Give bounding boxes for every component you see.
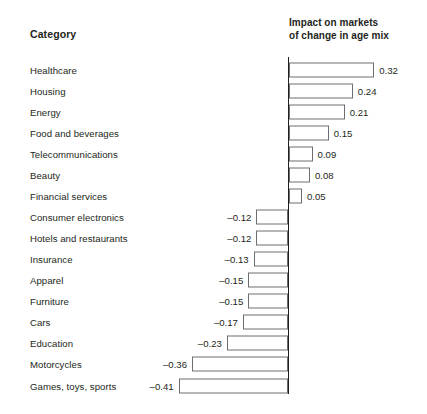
category-label: Cars: [30, 317, 50, 328]
chart-row: Housing0.24: [0, 80, 427, 101]
chart-row: Insurance–0.13: [0, 249, 427, 270]
value-label: –0.15: [219, 275, 243, 286]
value-label: 0.24: [358, 85, 377, 96]
value-label: –0.23: [198, 338, 222, 349]
impact-header-line-1: Impact on markets: [289, 17, 378, 28]
chart-row: Beauty0.08: [0, 164, 427, 185]
value-label: 0.09: [318, 148, 337, 159]
chart-row: Telecommunications0.09: [0, 143, 427, 164]
bar: [256, 209, 288, 224]
value-label: –0.41: [150, 380, 174, 391]
category-label: Housing: [30, 85, 66, 96]
category-label: Games, toys, sports: [30, 380, 116, 391]
bar: [256, 231, 288, 246]
value-label: –0.15: [219, 296, 243, 307]
column-header-category: Category: [30, 28, 76, 40]
impact-header-line-2: of change in age mix: [289, 30, 389, 43]
chart-row: Energy0.21: [0, 101, 427, 122]
bar: [179, 378, 289, 393]
bar: [192, 357, 288, 372]
chart-row: Hotels and restaurants–0.12: [0, 228, 427, 249]
bar: [227, 336, 289, 351]
value-label: –0.13: [225, 254, 249, 265]
chart-row: Education–0.23: [0, 333, 427, 354]
bar: [243, 315, 289, 330]
bar: [289, 62, 375, 77]
value-label: –0.12: [227, 233, 251, 244]
chart-row: Financial services0.05: [0, 185, 427, 206]
chart-row: Consumer electronics–0.12: [0, 206, 427, 227]
bar: [289, 146, 313, 161]
category-label: Energy: [30, 106, 61, 117]
value-label: 0.21: [350, 106, 369, 117]
chart-row: Furniture–0.15: [0, 291, 427, 312]
value-label: 0.08: [315, 169, 334, 180]
category-label: Motorcycles: [30, 359, 82, 370]
category-label: Consumer electronics: [30, 211, 124, 222]
bar: [289, 188, 302, 203]
category-label: Beauty: [30, 169, 60, 180]
category-label: Food and beverages: [30, 127, 119, 138]
chart-row: Cars–0.17: [0, 312, 427, 333]
bar: [289, 125, 329, 140]
bar: [289, 83, 353, 98]
value-label: 0.15: [334, 127, 353, 138]
chart-row: Food and beverages0.15: [0, 122, 427, 143]
chart-row: Games, toys, sports–0.41: [0, 375, 427, 396]
category-label: Financial services: [30, 190, 107, 201]
category-label: Insurance: [30, 254, 73, 265]
bar: [289, 104, 345, 119]
value-label: 0.05: [307, 190, 326, 201]
category-label: Healthcare: [30, 64, 77, 75]
category-label: Furniture: [30, 296, 69, 307]
category-label: Apparel: [30, 275, 63, 286]
category-label: Education: [30, 338, 73, 349]
chart-row: Healthcare0.32: [0, 59, 427, 80]
bar: [254, 252, 289, 267]
chart-row: Apparel–0.15: [0, 270, 427, 291]
bar: [289, 167, 310, 182]
bar: [248, 294, 288, 309]
bar: [248, 273, 288, 288]
value-label: –0.17: [214, 317, 238, 328]
value-label: –0.12: [227, 211, 251, 222]
age-mix-impact-bar-chart: Category Impact on markets of change in …: [0, 0, 427, 414]
value-label: –0.36: [163, 359, 187, 370]
value-label: 0.32: [379, 64, 398, 75]
column-header-impact: Impact on markets of change in age mix: [289, 17, 389, 42]
chart-row: Motorcycles–0.36: [0, 354, 427, 375]
category-label: Telecommunications: [30, 148, 118, 159]
category-label: Hotels and restaurants: [30, 233, 128, 244]
